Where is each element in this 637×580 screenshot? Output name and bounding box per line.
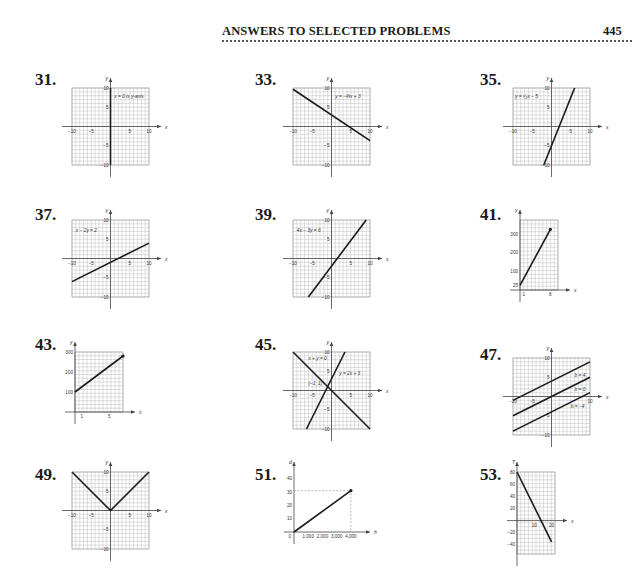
x-axis-label: x: [605, 124, 609, 130]
y-tick-label: −5: [103, 275, 109, 280]
x-tick-label: −10: [509, 129, 517, 134]
y-axis-arrow-icon: [330, 210, 334, 214]
endpoint-marker: [121, 354, 124, 357]
x-tick-label: −10: [289, 261, 297, 266]
x-tick-label: 5: [349, 393, 352, 398]
x-tick-label: −10: [289, 129, 297, 134]
y-tick-label: 10: [103, 218, 109, 223]
y-tick-label: −5: [324, 407, 330, 412]
y-axis-label: y: [326, 207, 330, 213]
y-axis-arrow-icon: [292, 462, 296, 466]
equation-annotation: x − 2y = 2: [75, 228, 97, 233]
x-tick-label: 5: [108, 414, 111, 419]
y-tick-label: 5: [106, 237, 109, 242]
endpoint-marker: [549, 228, 552, 231]
axes: xy1825100200300: [510, 207, 577, 302]
page-number: 445: [603, 24, 622, 39]
y-tick-label: 200: [65, 370, 73, 375]
y-tick-label: −5: [324, 275, 330, 280]
y-tick-label: −10: [322, 163, 330, 168]
equation-annotation: y = 2x + 3: [338, 371, 360, 376]
y-tick-label: −10: [542, 163, 550, 168]
x-axis-arrow-icon: [566, 288, 570, 292]
x-tick-label: 1,000: [302, 534, 314, 539]
y-axis-arrow-icon: [330, 78, 334, 82]
x-tick-label: 5: [128, 261, 131, 266]
y-axis-arrow-icon: [515, 462, 519, 466]
y-tick-label: 100: [65, 390, 73, 395]
x-tick-label: −10: [289, 393, 297, 398]
x-tick-label: −5: [310, 261, 316, 266]
y-tick-label: 60: [510, 482, 516, 487]
y-tick-label: −40: [507, 542, 515, 547]
y-axis-arrow-icon: [109, 210, 113, 214]
y-tick-label: −10: [322, 427, 330, 432]
axes: xy−10−510105−5−10: [503, 345, 609, 447]
x-axis-arrow-icon: [378, 125, 382, 129]
x-axis-label: x: [138, 409, 142, 415]
y-tick-label: 5: [106, 105, 109, 110]
axes: xy−10−5510105−5−10: [503, 75, 609, 177]
y-axis-label: y: [326, 75, 330, 81]
y-tick-label: −5: [324, 143, 330, 148]
graph-37: xy−10−5510105−5−10x − 2y = 2: [50, 198, 171, 319]
x-tick-label: 10: [587, 399, 593, 404]
x-tick-label: 4,000: [345, 534, 357, 539]
y-tick-label: 20: [510, 506, 516, 511]
x-axis-label: h: [374, 529, 377, 535]
y-tick-label: 200: [510, 250, 518, 255]
y-tick-label: 5: [106, 489, 109, 494]
y-tick-label: 10: [544, 356, 550, 361]
equation-annotation: b = −4: [571, 404, 585, 409]
y-tick-label: −5: [103, 527, 109, 532]
axes: xy−10−5510105−5−10: [283, 75, 389, 177]
y-axis-label: y: [105, 459, 109, 465]
equation-annotation: (−1, 1): [308, 381, 322, 386]
endpoint-marker: [349, 489, 352, 492]
x-tick-label: 10: [367, 393, 373, 398]
y-tick-label: 5: [327, 237, 330, 242]
x-tick-label: 5: [569, 129, 572, 134]
x-axis-arrow-icon: [131, 410, 135, 414]
y-tick-label: −5: [103, 143, 109, 148]
x-axis-label: x: [385, 124, 389, 130]
graph-33: xy−10−5510105−5−10y = −⅔x + 3: [271, 66, 392, 187]
x-tick-label: 5: [128, 513, 131, 518]
equation-annotation: 4x − 3y = 6: [297, 228, 321, 233]
x-axis-arrow-icon: [157, 125, 161, 129]
y-tick-label: −10: [101, 295, 109, 300]
y-tick-label: 300: [510, 232, 518, 237]
x-tick-label: 1: [81, 414, 84, 419]
y-tick-label: 5: [547, 105, 550, 110]
y-axis-label: y: [105, 75, 109, 81]
x-tick-label: 10: [532, 523, 538, 528]
y-tick-label: −10: [542, 433, 550, 438]
y-axis-arrow-icon: [109, 462, 113, 466]
equation-annotation: b = 0: [575, 387, 586, 392]
x-axis-label: x: [164, 256, 168, 262]
y-axis-label: y: [326, 339, 330, 345]
y-tick-label: 5: [547, 375, 550, 380]
x-tick-label: 20: [549, 523, 555, 528]
x-tick-label: −5: [310, 393, 316, 398]
x-tick-label: 5: [349, 261, 352, 266]
y-tick-label: 300: [65, 350, 73, 355]
y-tick-label: 40: [287, 476, 293, 481]
axes: xy−10−5510105−5−10: [62, 75, 168, 177]
graph-31: xy−10−5510105−5−10x = 0 is y-axis: [50, 66, 171, 187]
x-axis-label: x: [164, 508, 168, 514]
x-tick-label: 10: [146, 261, 152, 266]
graph-47: xy−10−510105−5−10b = 4b = 0b = −4: [491, 336, 612, 457]
x-axis-label: x: [605, 394, 609, 400]
x-tick-label: 10: [367, 129, 373, 134]
y-tick-label: 10: [324, 350, 330, 355]
y-axis-arrow-icon: [518, 210, 522, 214]
x-tick-label: −10: [68, 513, 76, 518]
graph-49: xy−10−5510105−5−10: [50, 450, 171, 571]
x-axis-label: x: [164, 124, 168, 130]
y-tick-label: 10: [287, 516, 293, 521]
x-axis-arrow-icon: [598, 395, 602, 399]
y-axis-arrow-icon: [109, 78, 113, 82]
y-axis-label: y: [546, 75, 550, 81]
dotted-divider: [222, 40, 632, 42]
